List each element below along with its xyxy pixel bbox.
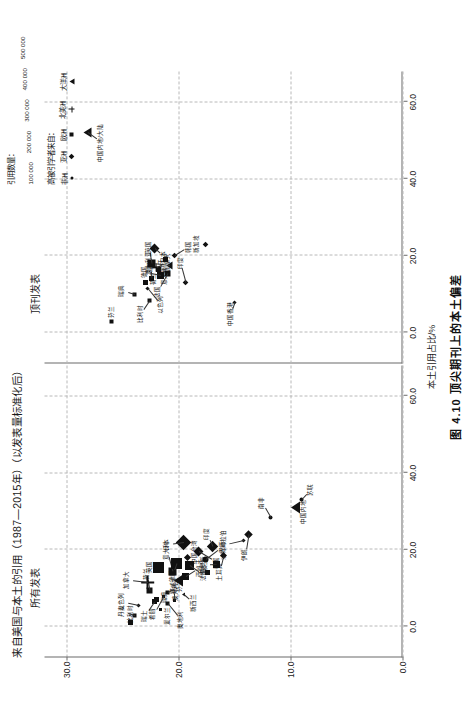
legend-shape-item: 北美洲 xyxy=(57,100,74,118)
data-point-label: 以色列 xyxy=(118,593,124,611)
gridline-vertical xyxy=(44,331,402,332)
gridline-vertical xyxy=(44,472,402,473)
data-point-label: 奥地利 xyxy=(177,611,183,629)
data-point-label: 俄罗斯 xyxy=(200,556,206,574)
gridline-vertical xyxy=(44,395,402,396)
x-tick-label: 0.0 xyxy=(407,326,417,338)
x-tick-label: 40.0 xyxy=(407,170,417,187)
legend-size-item: 500 000 xyxy=(18,36,38,58)
data-point-label: 中国内地 xyxy=(300,499,306,523)
rotated-figure-wrapper: 来自美国与本土的引用（1987—2015年）（以发表量标准化后） 所有发表 顶刊… xyxy=(0,0,471,713)
legend-size-label: 100 000 xyxy=(26,162,33,184)
figure-page: 来自美国与本土的引用（1987—2015年）（以发表量标准化后） 所有发表 顶刊… xyxy=(0,0,471,713)
gridline-horizontal xyxy=(402,71,403,363)
legend-size-label: 400 000 xyxy=(20,68,27,90)
data-point-marker xyxy=(202,241,208,247)
x-tick-mark xyxy=(403,101,407,102)
legend-size-item: 400 000 xyxy=(20,68,38,90)
legend-size-label: 500 000 xyxy=(18,36,25,58)
gridline-vertical xyxy=(44,178,402,179)
figure-caption: 图 4.10 顶尖期刊上的本土偏差 xyxy=(446,0,462,713)
legend-shape-item: 亚洲 xyxy=(58,150,73,162)
x-tick-mark xyxy=(403,254,407,255)
data-point-label: 比利时 xyxy=(137,305,143,323)
x-tick-label: 60.0 xyxy=(407,387,417,404)
x-tick-label: 60.0 xyxy=(407,93,417,110)
panel-left-title: 所有发表 xyxy=(26,567,41,607)
figure-main-title: 来自美国与本土的引用（1987—2015年）（以发表量标准化后） xyxy=(8,365,23,657)
data-point-label: 瑞士 xyxy=(141,609,147,621)
legend-size-item: 100 000 xyxy=(26,162,38,184)
legend-shape-item: 非洲 xyxy=(59,172,73,184)
data-point-label: 中国香港 xyxy=(227,302,233,326)
data-point-marker xyxy=(142,280,147,285)
label-leader-line xyxy=(143,299,150,309)
legend-size-item: 200 000 xyxy=(24,130,38,152)
x-tick-label: 20.0 xyxy=(407,247,417,264)
gridline-horizontal xyxy=(66,365,67,657)
legend-shape-title: 高被引学者来自： xyxy=(44,6,55,184)
legend-shape-item: 大洋洲 xyxy=(58,72,74,90)
legend-sq-marker-icon xyxy=(69,132,73,136)
x-tick-mark xyxy=(403,331,407,332)
y-tick-mark xyxy=(402,656,403,660)
gridline-vertical xyxy=(44,101,402,102)
data-point-label: 希腊 xyxy=(150,608,156,620)
panel-right-title: 顶刊发表 xyxy=(26,273,41,313)
y-tick-mark xyxy=(290,656,291,660)
data-point-label: 中国台湾 xyxy=(191,539,197,563)
data-point-label: 南非 xyxy=(259,496,265,508)
legend-c-marker-icon xyxy=(70,177,73,180)
data-point-marker xyxy=(159,607,162,610)
data-point-label: 英国 xyxy=(146,560,152,572)
x-tick-mark xyxy=(403,178,407,179)
gridline-horizontal xyxy=(402,365,403,657)
legend-pl-marker-icon xyxy=(68,106,74,112)
data-point-label: 芬兰 xyxy=(108,306,114,318)
data-point-label: 以色列 xyxy=(157,295,163,313)
data-point-label: 印度 xyxy=(177,256,183,268)
data-point-label: 爱尔兰 xyxy=(164,606,170,624)
legend-tr-marker-icon xyxy=(69,78,74,84)
legend-size-dot-icon xyxy=(27,42,38,53)
gridline-vertical xyxy=(44,625,402,626)
legend-shape-label: 北美洲 xyxy=(57,100,66,118)
legend-size-title: 引用数量： xyxy=(4,6,15,184)
x-tick-label: 0.0 xyxy=(407,620,417,632)
panel-right-y-axis xyxy=(44,362,402,363)
legend-size-dot-icon xyxy=(31,107,38,114)
y-tick-label: 20.0 xyxy=(173,661,183,681)
data-point-label: 日本 xyxy=(161,250,167,262)
legend-di-marker-icon xyxy=(68,153,74,159)
legend-shape-label: 大洋洲 xyxy=(58,72,67,90)
x-tick-label: 20.0 xyxy=(407,541,417,558)
legend-shape-label: 欧洲 xyxy=(58,128,67,140)
panel-left-y-axis xyxy=(44,656,402,657)
y-tick-label: 0.0 xyxy=(397,661,407,681)
legend-shape-label: 非洲 xyxy=(59,172,68,184)
scatter-panel-top-journals: 0.020.040.060.0芬兰瑞典比利时以色列荷兰瑞士德国法国意大利加拿大英… xyxy=(44,71,402,363)
legend-shape-item: 欧洲 xyxy=(58,128,73,140)
legend-size-items: 100 000200 000300 000400 000500 000 xyxy=(18,6,38,184)
gridline-horizontal xyxy=(290,71,291,363)
scatter-panel-all-publications: 0.020.040.060.00.010.020.030.0比利时丹麦瑞士奥地利… xyxy=(44,365,402,657)
y-tick-mark xyxy=(66,656,67,660)
data-point-label: 中国内地/大陆 xyxy=(97,124,103,162)
data-point-marker xyxy=(153,561,164,572)
data-point-marker xyxy=(290,501,299,513)
data-point-label: 澳大利亚 xyxy=(146,250,152,274)
data-point-label: 加拿大 xyxy=(123,571,129,589)
data-point-label: 印度 xyxy=(203,528,209,540)
data-point-label: 沙特阿拉伯 xyxy=(220,530,226,560)
data-point-marker xyxy=(153,597,158,602)
legend-shape-label: 亚洲 xyxy=(58,150,67,162)
data-point-label: 苏联 xyxy=(307,484,313,496)
data-point-label: 瑞典 xyxy=(118,284,124,296)
legend-size-item: 300 000 xyxy=(22,99,38,121)
data-point-label: 法国 xyxy=(154,285,160,297)
data-point-marker xyxy=(109,319,113,323)
y-tick-label: 10.0 xyxy=(285,661,295,681)
y-tick-label: 30.0 xyxy=(61,661,71,681)
y-tick-mark xyxy=(178,656,179,660)
legend-size-label: 200 000 xyxy=(24,130,31,152)
